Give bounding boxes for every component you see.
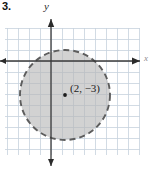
center-point-marker [63,93,67,97]
center-coordinate-label: (2, −3) [70,83,100,94]
graph-figure: 3. [0,0,151,170]
x-axis-label: x [144,54,148,63]
y-axis-label: y [44,1,49,12]
